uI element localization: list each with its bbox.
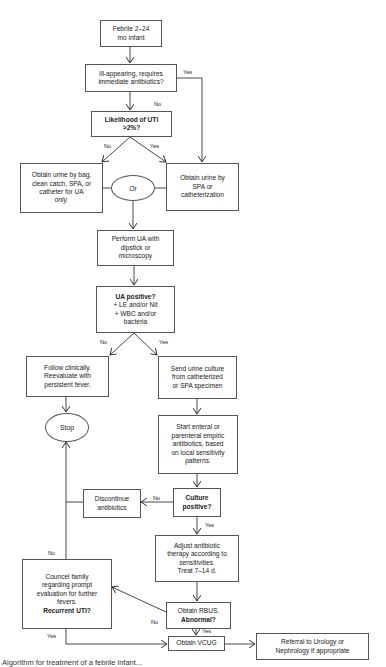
node-text: + WBC and/or	[115, 310, 157, 318]
node-text: antibiotics	[97, 504, 126, 512]
node-text: Culture	[185, 494, 208, 502]
node-text: sensitivities.	[179, 559, 215, 567]
node-discontinue-antibiotics: Discontinue antibiotics	[83, 489, 141, 518]
node-text: from catheterized	[172, 373, 223, 381]
node-referral: Referral to Urology or Nephrology if app…	[256, 633, 369, 660]
edge-label-rbus-no: No	[151, 619, 158, 625]
node-title: Recurrent UTI?	[43, 607, 91, 615]
edge-label-ua-yes: Yes	[159, 339, 168, 345]
node-text: Stop	[60, 424, 74, 431]
node-text: therapy according to	[167, 550, 227, 558]
node-text: Nephrology if appropriate	[275, 647, 349, 655]
node-text: Or	[129, 185, 137, 192]
node-obtain-vcug: Obtain VCUG	[168, 636, 225, 651]
node-text: catheterization	[181, 191, 224, 199]
node-perform-ua: Perform UA with dipstick or microscopy	[97, 230, 174, 266]
node-text: persistent fever.	[44, 381, 91, 389]
node-follow-clinically: Follow clinically. Reevaluate with persi…	[26, 356, 109, 397]
node-ua-positive: UA positive? + LE and/or Nit + WBC and/o…	[96, 286, 175, 333]
node-text: or SPA specimen	[172, 382, 222, 390]
node-text: Febrile 2–24	[113, 25, 150, 33]
node-text: only.	[55, 196, 68, 204]
node-text: + LE and/or Nit	[113, 301, 157, 309]
node-start-antibiotics: Start enteral or parenteral empiric anti…	[158, 415, 238, 474]
node-text: catheter for UA	[39, 188, 83, 196]
node-text: >2%?	[123, 124, 140, 132]
node-culture-positive: Culture positive?	[173, 488, 221, 517]
node-text: microscopy	[119, 252, 152, 260]
node-text: dipstick or	[121, 244, 151, 252]
node-adjust-antibiotics: Adjust antibiotic therapy according to s…	[155, 535, 239, 582]
node-text: Start enteral or	[176, 423, 220, 431]
node-text: clean catch, SPA, or	[32, 180, 91, 188]
edge-label-rbus-yes: Yes	[202, 628, 211, 634]
edge-label-culture-yes: Yes	[205, 522, 214, 528]
node-text: SPA or	[192, 183, 212, 191]
edge-label-recurrent-yes: Yes	[47, 633, 56, 639]
node-text: bacteria	[124, 318, 147, 326]
node-title: UA positive?	[115, 293, 155, 301]
node-text: Ill-appearing, requires	[99, 70, 163, 78]
node-text: Obtain RBUS.	[178, 607, 219, 615]
node-text: patterns.	[185, 457, 211, 465]
node-text: evaluation for further	[37, 590, 97, 598]
node-text: Likelihood of UTI	[105, 116, 158, 124]
edge-label-ill-yes: Yes	[183, 69, 192, 75]
node-urine-bag: Obtain urine by bag, clean catch, SPA, o…	[20, 163, 103, 213]
node-obtain-rbus: Obtain RBUS. Abnormal?	[166, 602, 231, 629]
node-send-culture: Send urine culture from catheterized or …	[158, 356, 237, 399]
node-text: fevers.	[57, 598, 77, 606]
node-text: Obtain urine by	[180, 174, 225, 182]
figure-caption: Algorithm for treatment of a febrile inf…	[2, 658, 142, 667]
node-text: Obtain VCUG	[176, 639, 216, 647]
node-likelihood-uti: Likelihood of UTI >2%?	[91, 111, 172, 137]
node-council-family: Councel family regarding prompt evaluati…	[22, 559, 112, 629]
node-text: antibiotics, based	[173, 440, 224, 448]
node-text: Obtain urine by bag,	[32, 171, 91, 179]
node-text: Send urine culture	[171, 365, 225, 373]
node-text: regarding prompt	[42, 581, 92, 589]
node-title: Abnormal?	[181, 616, 216, 624]
edge-label-culture-no: No	[153, 495, 160, 501]
edge-label-likelihood-no: No	[104, 143, 111, 149]
node-text: Follow clinically.	[44, 364, 91, 372]
node-text: Treat 7–14 d.	[178, 567, 217, 575]
node-text: Referral to Urology or	[281, 638, 344, 646]
edge-label-recurrent-no: No	[48, 550, 55, 556]
node-text: on local sensitivity	[171, 449, 224, 457]
node-ill-appearing: Ill-appearing, requires immediate antibi…	[85, 64, 177, 92]
node-text: Reevaluate with	[44, 372, 91, 380]
node-text: Discontinue	[95, 495, 129, 503]
node-text: positive?	[183, 503, 212, 511]
node-text: Adjust antibiotic	[174, 542, 220, 550]
node-urine-spa: Obtain urine by SPA or catheterization	[166, 163, 239, 211]
node-text: mo infant	[117, 34, 144, 42]
node-text: immediate antibiotics?	[98, 78, 163, 86]
edge-label-ua-no: No	[100, 339, 107, 345]
node-text: Perform UA with	[112, 235, 160, 243]
node-or-connector: Or	[111, 175, 155, 201]
node-text: Councel family	[45, 573, 88, 581]
node-febrile-infant: Febrile 2–24 mo infant	[100, 20, 162, 47]
edge-label-likelihood-yes: Yes	[150, 143, 159, 149]
node-stop: Stop	[45, 413, 89, 442]
edge-label-ill-no: No	[154, 101, 161, 107]
node-text: parenteral empiric	[172, 432, 225, 440]
